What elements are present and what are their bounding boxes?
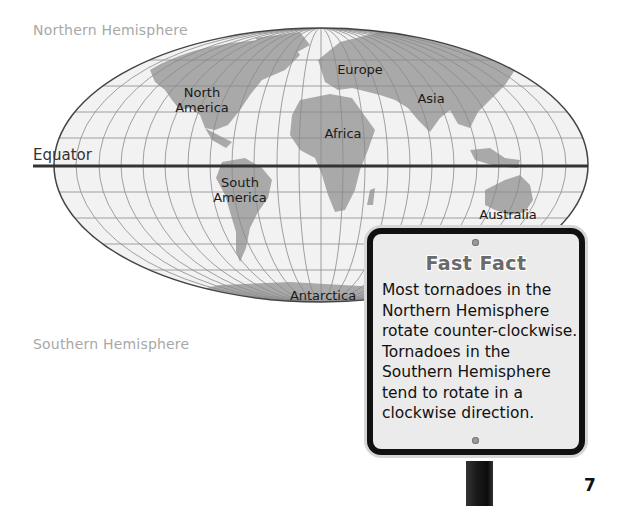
fact-line: Most tornadoes in the: [382, 280, 573, 301]
fact-line: Southern Hemisphere: [382, 362, 573, 383]
equator-label: Equator: [33, 146, 92, 164]
label-europe: Europe: [330, 62, 390, 77]
page-number: 7: [584, 475, 596, 495]
label-south-america-line1: South: [210, 175, 270, 190]
bolt-icon: [472, 437, 479, 444]
bolt-icon: [472, 239, 479, 246]
fact-line: Tornadoes in the: [382, 342, 573, 363]
fast-fact-title: Fast Fact: [373, 252, 579, 274]
fact-line: tend to rotate in a: [382, 383, 573, 404]
label-australia: Australia: [478, 207, 538, 222]
southern-hemisphere-label: Southern Hemisphere: [33, 336, 189, 352]
label-south-america-line2: America: [210, 190, 270, 205]
fast-fact-sign: Fast Fact Most tornadoes in the Northern…: [367, 228, 585, 455]
fact-line: clockwise direction.: [382, 403, 573, 424]
label-africa: Africa: [318, 126, 368, 141]
label-antarctica: Antarctica: [288, 288, 358, 303]
fact-line: Northern Hemisphere: [382, 301, 573, 322]
fact-line: rotate counter-clockwise.: [382, 321, 573, 342]
label-north-america: North America: [172, 85, 232, 115]
fast-fact-body: Most tornadoes in the Northern Hemispher…: [382, 280, 573, 424]
label-north-america-line1: North: [172, 85, 232, 100]
label-asia: Asia: [411, 91, 451, 106]
label-south-america: South America: [210, 175, 270, 205]
label-north-america-line2: America: [172, 100, 232, 115]
sign-pole: [466, 461, 493, 506]
